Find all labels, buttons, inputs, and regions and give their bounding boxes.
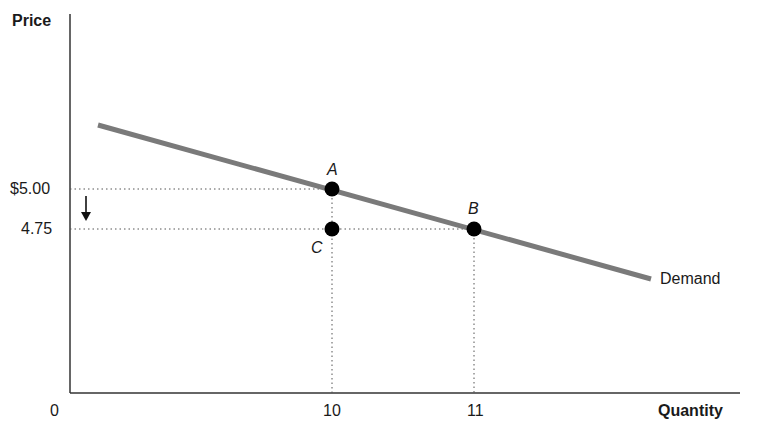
point-b [467,222,482,237]
point-b-label: B [468,200,479,218]
chart-canvas [0,0,759,443]
origin-label: 0 [50,402,59,420]
y-axis-label: Price [12,12,51,30]
point-a-label: A [327,161,338,179]
arrow-down-icon [81,196,91,221]
x-tick-10: 10 [323,402,341,420]
demand-line [98,125,651,279]
point-c-label: C [311,239,323,257]
demand-label: Demand [660,270,720,288]
y-tick-5: $5.00 [10,180,50,198]
x-tick-11: 11 [467,402,484,420]
y-tick-475: 4.75 [21,220,52,238]
point-c [325,222,340,237]
point-a [325,182,340,197]
x-axis-label: Quantity [658,402,723,420]
